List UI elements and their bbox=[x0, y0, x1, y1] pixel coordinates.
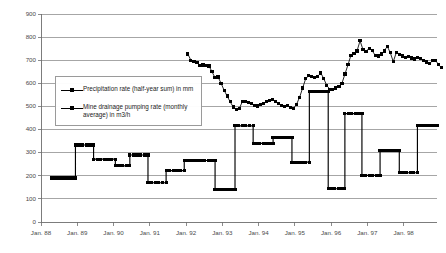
chart-container: Precipitation rate (half-year sum) in mm… bbox=[0, 0, 446, 253]
x-axis-tick-label: Jan. 90 bbox=[94, 230, 134, 236]
legend-line-marker-icon bbox=[61, 86, 83, 94]
legend-label-pumping: Mine drainage pumping rate (monthly aver… bbox=[83, 103, 199, 119]
x-axis-tick-label: Jan. 89 bbox=[57, 230, 97, 236]
chart-legend: Precipitation rate (half-year sum) in mm… bbox=[55, 76, 202, 126]
y-axis-tick-label: 100 bbox=[8, 196, 36, 202]
y-axis-tick-label: 600 bbox=[8, 80, 36, 86]
y-axis-tick-label: 800 bbox=[8, 34, 36, 40]
x-axis-tick-label: Jan. 92 bbox=[166, 230, 206, 236]
legend-entry-pumping: Mine drainage pumping rate (monthly aver… bbox=[61, 103, 199, 119]
x-axis-tick-label: Jan. 96 bbox=[311, 230, 351, 236]
legend-label-precipitation: Precipitation rate (half-year sum) in mm bbox=[83, 85, 193, 93]
x-axis-tick-label: Jan. 95 bbox=[275, 230, 315, 236]
legend-line-marker-icon bbox=[61, 104, 83, 112]
y-axis-tick-label: 500 bbox=[8, 103, 36, 109]
legend-entry-precipitation: Precipitation rate (half-year sum) in mm bbox=[61, 85, 193, 94]
y-axis-tick-label: 0 bbox=[8, 219, 36, 225]
x-axis-tick-label: Jan. 97 bbox=[347, 230, 387, 236]
x-axis-tick-label: Jan. 98 bbox=[384, 230, 424, 236]
x-axis-tick-label: Jan. 88 bbox=[21, 230, 61, 236]
y-axis-tick-label: 900 bbox=[8, 11, 36, 17]
x-axis-tick-label: Jan. 93 bbox=[202, 230, 242, 236]
chart-plot-area bbox=[0, 0, 446, 253]
x-axis-tick-label: Jan. 94 bbox=[239, 230, 279, 236]
y-axis-tick-label: 300 bbox=[8, 149, 36, 155]
x-axis-tick-label: Jan. 91 bbox=[130, 230, 170, 236]
y-axis-tick-label: 700 bbox=[8, 57, 36, 63]
y-axis-tick-label: 200 bbox=[8, 173, 36, 179]
y-axis-tick-label: 400 bbox=[8, 126, 36, 132]
